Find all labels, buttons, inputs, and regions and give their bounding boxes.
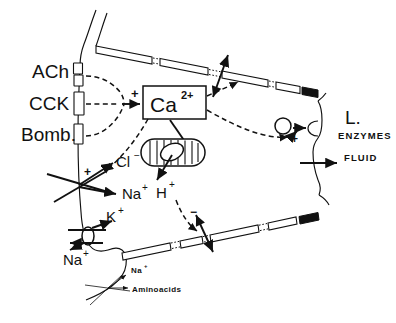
svg-text:+: + (83, 248, 89, 259)
chloride-label: Cl − (116, 150, 140, 170)
chloride-sodium-transport (47, 163, 116, 202)
ligand-label-ach: ACh (32, 61, 69, 82)
aminoacids-label: Aminoacids (132, 285, 181, 294)
apical-tubule-upper (96, 46, 318, 98)
svg-text:−: − (134, 150, 140, 161)
svg-text:+: + (169, 179, 175, 190)
acinar-cell-diagram: ACh CCK Bomb. Ca 2+ + (0, 0, 396, 323)
fluid-label: FLUID (344, 152, 377, 163)
svg-text:Cl: Cl (116, 153, 130, 170)
diagram-canvas: ACh CCK Bomb. Ca 2+ + (0, 0, 396, 323)
plus-sign-calcium: + (131, 86, 139, 101)
lumen-abbrev-label: L. (345, 107, 361, 128)
plus-sign-exocytosis: + (291, 132, 298, 146)
calcium-box: Ca 2+ (143, 86, 206, 119)
apical-tubule-lower (122, 213, 319, 261)
calcium-superscript: 2+ (181, 89, 194, 101)
receptor-to-calcium-pathways (86, 76, 140, 136)
svg-text:+: + (118, 205, 124, 216)
sodium-aminoacid-cotransport (85, 275, 130, 305)
potassium-label: K + (106, 205, 124, 225)
ligand-label-cck: CCK (29, 93, 69, 114)
enzymes-label: ENZYMES (338, 130, 392, 141)
svg-text:+: + (144, 263, 148, 269)
svg-text:K: K (106, 208, 116, 225)
sodium-pump-label: Na + (63, 248, 89, 268)
plus-sign-chloride: + (84, 165, 91, 179)
calcium-label: Ca (150, 93, 177, 116)
sodium-apical-label: Na + (122, 182, 148, 202)
svg-text:Na: Na (131, 266, 142, 275)
svg-text:+: + (142, 182, 148, 193)
svg-text:Na: Na (122, 185, 142, 202)
ligand-label-bomb: Bomb. (21, 124, 76, 145)
proton-label: H + (156, 179, 175, 201)
svg-text:Na: Na (63, 251, 83, 268)
svg-text:H: H (156, 184, 167, 201)
mitochondrion (141, 139, 205, 166)
receptor-ach[interactable] (74, 63, 84, 86)
cotransport-sodium-label: Na + (131, 263, 148, 275)
receptor-cck[interactable] (74, 92, 84, 115)
zymogen-granule (275, 118, 291, 134)
tubule-lower-motility-arrow (196, 215, 213, 252)
